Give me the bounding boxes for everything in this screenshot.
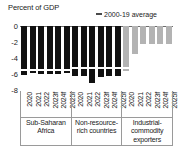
bar-slot [148,26,157,90]
bar-slot [105,26,114,90]
group-caption-line: Industrial- [131,119,164,127]
average-marker [72,67,79,69]
y-tick-label: -8 [11,86,18,95]
group-caption-line: Sub-Saharan [26,119,66,127]
x-tick-slot: 2022 [139,91,148,117]
group-caption-line: commodity [131,127,164,135]
average-marker [46,69,53,71]
y-tick-label: -2 [11,38,18,47]
x-tick-slot: 2024f [54,91,63,117]
group-captions: Sub-SaharanAfricaNon-resource-rich count… [20,117,173,146]
x-tick-slot: 2020 [122,91,131,117]
x-tick-slot: 2021 [29,91,38,117]
bar-slot [97,26,106,90]
bar-group [71,26,122,90]
bar-slot [29,26,38,90]
bar-slot [37,26,46,90]
chart-legend: 2000-19 average [96,11,157,18]
group-caption-line: exporters [131,136,164,144]
average-marker [89,67,96,69]
bar[interactable] [106,26,112,76]
x-label-group: 2020202120222023f2024f2025f [122,91,173,117]
average-marker [123,67,130,69]
bar-group [122,26,173,90]
group-caption: Industrial-commodityexporters [122,118,173,145]
bar[interactable] [140,26,146,44]
x-tick-slot: 2021 [80,91,89,117]
bar[interactable] [47,26,53,74]
bar[interactable] [64,26,70,73]
x-tick-slot: 2024f [105,91,114,117]
bar-slot [20,26,29,90]
bar-group [20,26,71,90]
bar-slot [165,26,174,90]
bar-slot [114,26,123,90]
bar-slot [54,26,63,90]
bar-slot [88,26,97,90]
average-marker [29,69,36,71]
x-tick-slot: 2023f [97,91,106,117]
x-tick-slot: 2020 [71,91,80,117]
x-label-group: 2020202120222023f2024f2025f [71,91,122,117]
average-marker [140,67,147,69]
x-tick-slot: 2023f [148,91,157,117]
bar[interactable] [72,26,78,76]
bar[interactable] [123,26,129,71]
average-marker [63,69,70,71]
bar[interactable] [157,26,163,44]
bar-slot [131,26,140,90]
average-marker [165,67,172,69]
bar-slot [139,26,148,90]
group-caption: Sub-SaharanAfrica [21,118,72,145]
y-axis-title: Percent of GDP [8,3,59,12]
bar[interactable] [38,26,44,74]
bar[interactable] [55,26,61,74]
bar-slot [46,26,55,90]
x-tick-slot: 2023f [46,91,55,117]
x-label-group: 2020202120222023f2024f2025f [20,91,71,117]
average-marker [55,69,62,71]
bar-slot [122,26,131,90]
bar[interactable] [132,26,138,54]
y-tick-label: -4 [11,54,18,63]
x-axis-labels: 2020202120222023f2024f2025f2020202120222… [20,91,173,117]
average-marker [106,67,113,69]
average-marker [131,67,138,69]
bar-slot [80,26,89,90]
bar-slot [71,26,80,90]
x-tick-slot: 2025f [63,91,72,117]
group-caption-line: rich countries [75,127,118,135]
average-marker [80,67,87,69]
plot-area: 0-2-4-6-8 [20,26,173,90]
group-caption-line: Africa [26,127,66,135]
bar[interactable] [30,26,36,73]
bar-slot [63,26,72,90]
x-tick-slot: 2024f [156,91,165,117]
average-marker [38,69,45,71]
average-marker [114,67,121,69]
x-tick-label: 2025f [170,92,177,109]
group-caption-line: Non-resource- [75,119,118,127]
average-marker [97,67,104,69]
bar[interactable] [166,26,172,44]
y-tick-label: -6 [11,70,18,79]
chart-container: Percent of GDP 2000-19 average 0-2-4-6-8… [0,0,181,147]
x-tick-slot: 2020 [20,91,29,117]
bar[interactable] [149,26,155,44]
x-tick-slot: 2022 [37,91,46,117]
bar-slot [156,26,165,90]
x-tick-slot: 2021 [131,91,140,117]
bar[interactable] [21,26,27,75]
bar[interactable] [89,26,95,83]
group-caption: Non-resource-rich countries [72,118,123,145]
legend-dash-icon [96,13,102,15]
bar[interactable] [98,26,104,77]
x-tick-slot: 2025f [165,91,174,117]
average-marker [148,67,155,69]
bar[interactable] [115,26,121,76]
legend-label-average: 2000-19 average [104,11,157,18]
average-marker [157,67,164,69]
x-tick-slot: 2025f [114,91,123,117]
bar-groups [20,26,173,90]
average-marker [21,69,28,71]
